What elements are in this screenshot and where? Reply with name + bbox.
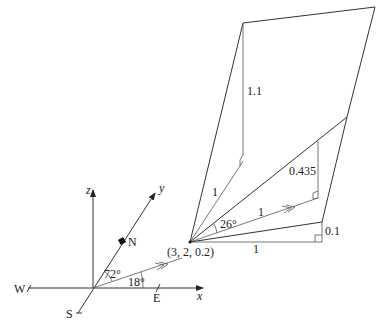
angle-72-label: 72°: [104, 267, 121, 281]
plane-outline: [190, 7, 375, 242]
north-label: N: [128, 235, 137, 249]
south-label: S: [66, 307, 73, 321]
plane-figure: 1.1 1 0.435 1 26° 1 0.1 (3, 2, 0.2): [167, 7, 375, 259]
mid-line: [190, 117, 347, 242]
mid-vertical-label: 0.435: [289, 164, 316, 178]
point-marker: [189, 241, 192, 244]
east-label: E: [153, 291, 160, 305]
lower-vertical-label: 0.1: [325, 224, 340, 238]
base-label: 1: [253, 242, 259, 256]
direction-unit-line: [190, 198, 318, 242]
angle-arc-26: [214, 224, 217, 233]
upper-vertical-label: 1.1: [247, 84, 262, 98]
double-arrow-icon: [155, 262, 168, 270]
right-angle-mid: [313, 191, 318, 199]
y-axis: [78, 193, 155, 313]
diagram-canvas: z y x N S E W 72° 18° 1.1 1 0.435 1 2: [0, 0, 386, 331]
z-label: z: [85, 183, 91, 197]
angle-26-label: 26°: [220, 217, 237, 231]
west-label: W: [14, 282, 26, 296]
direction-unit-label: 1: [258, 205, 264, 219]
right-angle-lower: [315, 235, 322, 242]
upper-slant-label: 1: [212, 185, 218, 199]
right-angle-upper: [240, 155, 243, 166]
point-label: (3, 2, 0.2): [167, 245, 214, 259]
y-label: y: [158, 181, 165, 195]
double-arrow-icon: [282, 205, 295, 213]
x-label: x: [196, 289, 203, 303]
north-marker: [118, 237, 126, 245]
angle-18-label: 18°: [128, 275, 145, 289]
